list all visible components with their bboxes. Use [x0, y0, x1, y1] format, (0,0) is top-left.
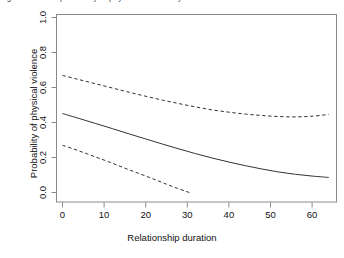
y-tick-label: 0.4: [37, 116, 48, 129]
y-axis-tick-labels: 0.0 0.2 0.4 0.6 0.8 1.0: [37, 11, 48, 199]
plot-canvas: 0.0 0.2 0.4 0.6 0.8 1.0 0 10 20 30 40 50…: [0, 0, 344, 258]
x-tick-label: 10: [99, 209, 110, 220]
x-tick-label: 50: [265, 209, 276, 220]
x-tick-label: 60: [307, 209, 318, 220]
y-axis-title: Probability of physical violence: [28, 20, 39, 208]
x-tick-label: 40: [224, 209, 235, 220]
x-tick-label: 30: [182, 209, 193, 220]
y-tick-label: 0.6: [37, 81, 48, 94]
series-curve: [63, 145, 190, 192]
y-tick-label: 0.0: [37, 186, 48, 199]
x-axis-ticks: [63, 203, 313, 208]
y-tick-label: 0.2: [37, 151, 48, 164]
x-tick-label: 20: [140, 209, 151, 220]
series-curve: [63, 75, 329, 116]
data-series-layer: [63, 75, 329, 192]
x-axis-title: Relationship duration: [0, 232, 344, 243]
y-axis-ticks: [52, 18, 57, 193]
x-tick-label: 0: [60, 209, 65, 220]
series-curve: [63, 114, 329, 178]
y-tick-label: 1.0: [37, 11, 48, 24]
x-axis-tick-labels: 0 10 20 30 40 50 60: [60, 209, 318, 220]
figure-panel: Fig. 1 Predicted probability of physical…: [0, 0, 344, 258]
y-tick-label: 0.8: [37, 46, 48, 59]
